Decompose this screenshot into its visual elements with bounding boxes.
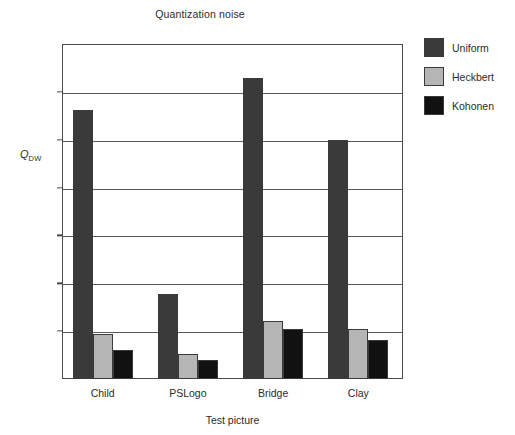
legend-label: Uniform	[452, 42, 489, 54]
legend-swatch	[424, 67, 444, 86]
chart-figure: Quantization noise 05101520253035 QDW Ch…	[0, 0, 515, 435]
y-axis: 05101520253035	[0, 0, 62, 435]
x-axis-tick-label: Clay	[348, 387, 369, 399]
bar	[178, 354, 198, 379]
bar	[283, 329, 303, 379]
x-axis-title: Test picture	[62, 414, 403, 426]
bar	[348, 329, 368, 379]
legend-item[interactable]: Kohonen	[424, 96, 494, 115]
bar	[113, 350, 133, 379]
bar	[263, 321, 283, 379]
chart-legend: UniformHeckbertKohonen	[424, 38, 494, 125]
bar	[158, 294, 178, 379]
bars-layer	[62, 44, 403, 379]
x-axis-tick-label: PSLogo	[169, 387, 206, 399]
y-axis-title: QDW	[20, 148, 41, 163]
legend-label: Heckbert	[452, 71, 494, 83]
x-axis-tick-label: Child	[91, 387, 115, 399]
y-axis-title-subscript: DW	[29, 154, 42, 163]
bar	[328, 140, 348, 379]
x-axis-tick-label: Bridge	[258, 387, 288, 399]
legend-swatch	[424, 38, 444, 57]
bar	[198, 360, 218, 379]
bar	[243, 78, 263, 380]
bar	[73, 110, 93, 379]
legend-swatch	[424, 96, 444, 115]
legend-item[interactable]: Heckbert	[424, 67, 494, 86]
y-axis-title-main: Q	[20, 148, 29, 160]
legend-label: Kohonen	[452, 100, 494, 112]
bar	[93, 334, 113, 379]
legend-item[interactable]: Uniform	[424, 38, 494, 57]
bar	[368, 340, 388, 379]
